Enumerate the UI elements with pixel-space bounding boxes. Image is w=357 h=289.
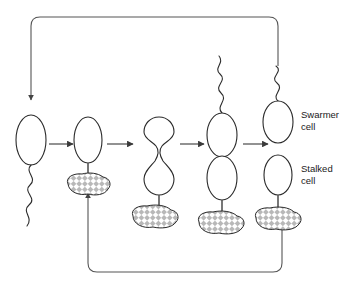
holdfast-icon: [132, 205, 178, 228]
swarmer-label-line1: Swarmer: [301, 109, 339, 120]
stage-5-divided-cells: [255, 66, 301, 230]
stage-1-swarmer-cell: [16, 115, 46, 226]
swarmer-label-line2: cell: [301, 121, 315, 132]
stalked-recycle-loop-bottom: [88, 193, 282, 272]
stage-2-stalked-cell: [67, 117, 110, 195]
flagellum-icon: [218, 56, 224, 113]
stalked-label-line2: cell: [301, 175, 315, 186]
lifecycle-svg-canvas: Swarmer cell Stalked cell: [0, 0, 357, 289]
stage-3-predivisional-cell: [132, 117, 178, 228]
cell-body-oval: [74, 117, 102, 163]
cell-body-oval: [16, 115, 46, 165]
stage-4-predivisional-cell-with-flagellum: [198, 56, 244, 234]
swarmer-recycle-loop-top: [31, 17, 278, 100]
flagellum-icon: [275, 66, 280, 101]
stalked-label-line1: Stalked: [301, 163, 333, 174]
swarmer-cell-label: Swarmer cell: [301, 109, 339, 132]
stalked-cell-label: Stalked cell: [301, 163, 333, 186]
holdfast-icon: [67, 173, 110, 195]
swarmer-cell-oval: [263, 101, 293, 143]
stalked-cell-oval: [264, 155, 292, 195]
cell-body-oval-upper: [207, 113, 237, 157]
cell-body-dumbbell: [144, 117, 174, 195]
holdfast-icon: [255, 207, 301, 230]
flagellum-icon: [26, 165, 32, 226]
cell-body-oval-lower: [207, 156, 237, 200]
caulobacter-lifecycle-diagram: Swarmer cell Stalked cell: [0, 0, 357, 289]
holdfast-icon: [198, 211, 244, 234]
